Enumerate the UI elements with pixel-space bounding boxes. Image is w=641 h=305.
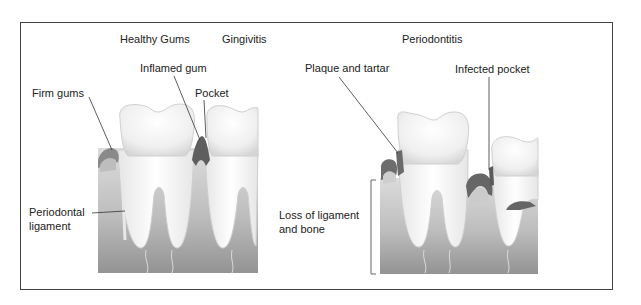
- label-loss-line2: and bone: [279, 223, 325, 236]
- loss-bracket: [371, 180, 376, 274]
- periodontitis-illustration: [380, 112, 538, 274]
- label-periodontal-ligament-line2: ligament: [29, 220, 71, 233]
- label-firm-gums: Firm gums: [32, 87, 84, 100]
- title-periodontitis: Periodontitis: [402, 33, 463, 46]
- title-gingivitis: Gingivitis: [222, 33, 267, 46]
- label-plaque-tartar: Plaque and tartar: [305, 62, 389, 75]
- label-inflamed-gum: Inflamed gum: [140, 62, 207, 75]
- label-infected-pocket: Infected pocket: [455, 63, 530, 76]
- leader-pocket: [204, 100, 206, 138]
- teeth-illustration: [0, 0, 641, 305]
- leader-plaque-tartar: [339, 77, 398, 153]
- title-healthy-gums: Healthy Gums: [120, 33, 190, 46]
- label-periodontal-ligament-line1: Periodontal: [29, 206, 85, 219]
- tooth-crown: [207, 106, 258, 156]
- label-loss-line1: Loss of ligament: [279, 209, 359, 222]
- healthy-gingivitis-illustration: [98, 104, 258, 273]
- leader-firm-gums: [89, 97, 112, 150]
- tooth-crown: [398, 112, 469, 164]
- label-pocket: Pocket: [195, 87, 229, 100]
- tooth-crown: [120, 104, 195, 156]
- tooth-crown: [492, 137, 538, 176]
